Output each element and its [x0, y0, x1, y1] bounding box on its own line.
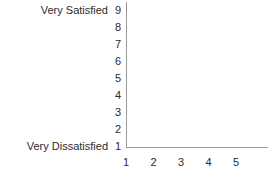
x-axis-tick-label: 3	[173, 157, 189, 168]
y-axis-tick-label: 6	[0, 56, 121, 67]
y-axis-tick-label: 3	[0, 107, 121, 118]
plot-area	[127, 2, 268, 147]
y-axis-tick-label: 8	[0, 22, 121, 33]
y-axis-tick-label: 5	[0, 73, 121, 84]
x-axis-tick-label: 5	[228, 157, 244, 168]
x-axis-tick-label: 4	[201, 157, 217, 168]
chart-figure: Very Satisfied Very Dissatisfied 9876543…	[0, 0, 278, 178]
x-axis-line	[126, 147, 268, 148]
y-axis-tick-label: 2	[0, 124, 121, 135]
x-axis-tick-label: 1	[118, 157, 134, 168]
x-axis-tick-label: 2	[146, 157, 162, 168]
y-axis-tick-label: 9	[0, 5, 121, 16]
y-axis-tick-labels: 987654321	[0, 0, 121, 178]
y-axis-tick-label: 4	[0, 90, 121, 101]
y-axis-tick-label: 7	[0, 39, 121, 50]
y-axis-tick-label: 1	[0, 141, 121, 152]
